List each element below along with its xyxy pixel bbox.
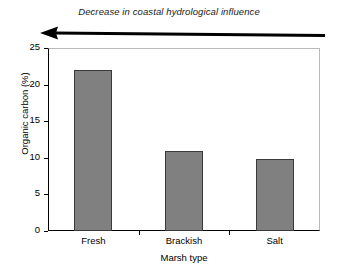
- y-tick-label: 10: [29, 151, 40, 162]
- y-tick-label: 25: [29, 41, 40, 52]
- y-tick-mark: [44, 231, 48, 232]
- y-axis-title: Organic carbon (%): [19, 39, 30, 189]
- y-tick-label: 15: [29, 114, 40, 125]
- y-tick-label: 20: [29, 78, 40, 89]
- y-tick-mark: [44, 48, 48, 49]
- y-tick-mark: [44, 85, 48, 86]
- x-axis-title: Marsh type: [48, 252, 320, 263]
- x-tick-label: Salt: [229, 235, 320, 246]
- left-arrow-icon: [40, 24, 325, 42]
- x-tick-label: Brackish: [139, 235, 230, 246]
- y-tick-mark: [44, 121, 48, 122]
- y-tick-label: 0: [35, 224, 40, 235]
- bar-chart-figure: Decrease in coastal hydrological influen…: [0, 0, 338, 278]
- bar: [165, 151, 203, 231]
- annotation-caption: Decrease in coastal hydrological influen…: [0, 6, 338, 17]
- y-tick-label: 5: [35, 187, 40, 198]
- y-tick-mark: [44, 194, 48, 195]
- bar: [256, 159, 294, 231]
- bar: [74, 70, 112, 231]
- x-tick-label: Fresh: [48, 235, 139, 246]
- y-tick-mark: [44, 158, 48, 159]
